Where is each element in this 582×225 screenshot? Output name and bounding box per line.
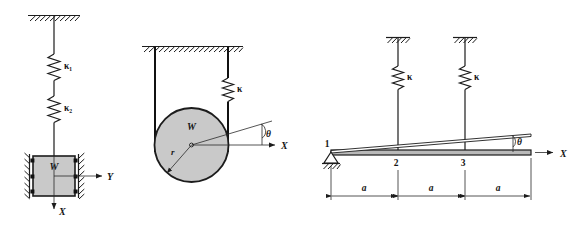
- spring-kappa-middle: [223, 78, 234, 102]
- theta-label-middle: θ: [266, 129, 271, 139]
- diagram-left: κ₁ κ₂: [25, 16, 115, 218]
- spring-kappa-1: [48, 54, 60, 81]
- axis-y-left-label: Y: [107, 171, 114, 182]
- guide-wall-left: [25, 153, 30, 199]
- vibration-figure-root: κ₁ κ₂: [0, 0, 582, 225]
- spring-kappa-2-label: κ₂: [64, 103, 72, 113]
- roller-right-bottom: [74, 190, 78, 194]
- spring-kappa-1-label: κ₁: [64, 61, 72, 71]
- axis-x-right-label: X: [559, 148, 567, 159]
- axis-x-left-label: X: [58, 206, 66, 217]
- dim-label-a-1: a: [362, 183, 367, 193]
- spring-kappa-right-2: [460, 66, 471, 90]
- figure-canvas: κ₁ κ₂: [0, 0, 582, 225]
- roller-left-top: [30, 159, 34, 163]
- axis-x-middle-label: X: [280, 140, 288, 151]
- node-label-2: 2: [394, 158, 399, 168]
- dim-label-a-2: a: [429, 183, 434, 193]
- spring-kappa-middle-label: κ: [237, 84, 243, 94]
- node-label-1: 1: [325, 139, 330, 149]
- spring-kappa-right-1-label: κ: [407, 72, 413, 82]
- spring-kappa-right-2-label: κ: [474, 72, 480, 82]
- pulley-disk-label: W: [187, 121, 197, 132]
- node-label-3: 3: [461, 158, 466, 168]
- radius-label: r: [171, 147, 175, 157]
- roller-left-bottom: [30, 190, 34, 194]
- theta-label-right: θ: [517, 137, 522, 147]
- roller-left-mid: [30, 175, 34, 179]
- spring-kappa-right-1: [393, 66, 404, 90]
- spring-kappa-2: [48, 96, 60, 123]
- diagram-middle: κ W r X θ: [142, 47, 288, 183]
- diagram-right: κ κ 1 2: [322, 38, 567, 201]
- dim-label-a-3: a: [496, 183, 501, 193]
- mass-block-label: W: [50, 161, 60, 172]
- roller-right-mid: [74, 175, 78, 179]
- roller-right-top: [74, 159, 78, 163]
